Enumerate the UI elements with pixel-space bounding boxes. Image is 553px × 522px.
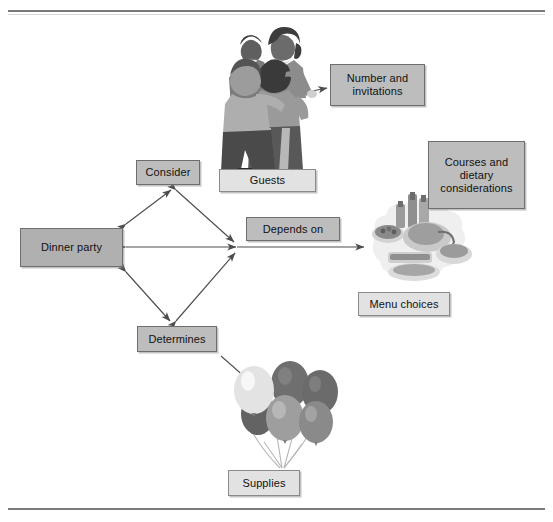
edge-determines-hub	[176, 253, 235, 321]
guests-illustration	[216, 12, 326, 172]
balloons-illustration	[228, 362, 338, 477]
edge-dinner-determines	[126, 272, 170, 321]
node-depends-on[interactable]: Depends on	[246, 217, 340, 241]
node-label: Number and invitations	[347, 72, 409, 98]
node-label-line-2: dietary	[460, 169, 494, 181]
node-label-line-1: Number and	[347, 72, 409, 84]
node-label: Menu choices	[369, 298, 438, 311]
node-label-line-3: considerations	[440, 182, 512, 194]
edge-dinner-consider	[126, 190, 171, 224]
node-label: Courses and dietary considerations	[440, 156, 512, 195]
node-label: Supplies	[243, 477, 286, 490]
node-dinner-party[interactable]: Dinner party	[20, 228, 123, 267]
node-label: Determines	[148, 333, 205, 346]
node-label-line-2: invitations	[352, 85, 402, 97]
node-determines[interactable]: Determines	[137, 326, 217, 352]
node-label: Guests	[250, 174, 285, 187]
node-menu-choices[interactable]: Menu choices	[358, 292, 450, 316]
node-label: Depends on	[263, 223, 323, 236]
node-label-line-1: Courses and	[445, 156, 508, 168]
node-consider[interactable]: Consider	[136, 160, 200, 185]
node-supplies[interactable]: Supplies	[228, 470, 300, 496]
node-number-and-invitations[interactable]: Number and invitations	[330, 64, 425, 106]
edge-consider-hub	[176, 190, 234, 242]
node-courses-and-dietary-considerations[interactable]: Courses and dietary considerations	[428, 141, 525, 209]
node-label: Consider	[146, 166, 191, 179]
node-label: Dinner party	[41, 241, 102, 254]
node-guests[interactable]: Guests	[219, 169, 316, 192]
